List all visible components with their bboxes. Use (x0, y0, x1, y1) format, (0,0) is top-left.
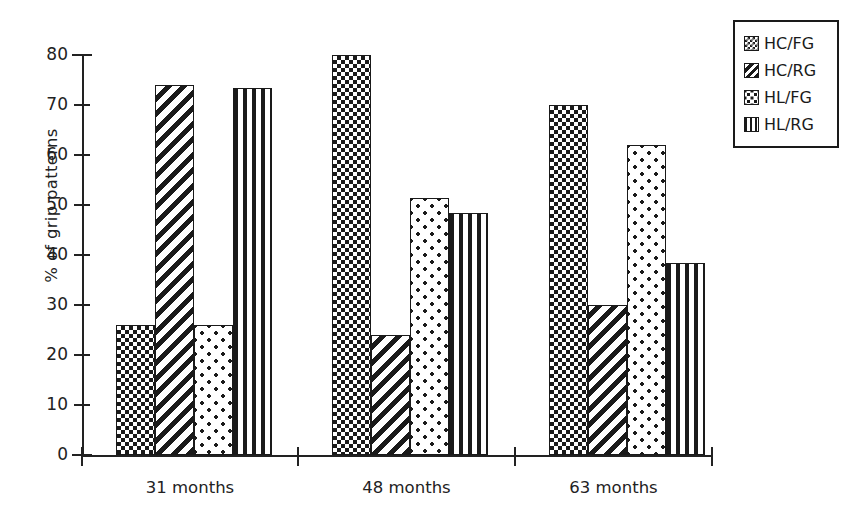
bar-hc-fg-48mo (332, 55, 371, 455)
y-axis-tick (72, 454, 92, 456)
bar-hc-fg-31mo (116, 325, 155, 455)
bar-hc-rg-31mo (155, 85, 194, 455)
legend-swatch-icon (744, 90, 759, 105)
bar-hl-fg-48mo (410, 198, 449, 456)
y-axis-tick (74, 304, 90, 306)
x-axis-tick (711, 447, 713, 466)
x-axis-tick (81, 447, 83, 466)
y-axis-tick (72, 54, 92, 56)
legend-swatch-icon (744, 117, 759, 132)
bar-hl-fg-31mo (194, 325, 233, 455)
bar-hc-fg-63mo (549, 105, 588, 455)
legend-item-label: HC/FG (764, 36, 814, 52)
bar-hl-rg-48mo (449, 213, 488, 456)
chart-figure: % of grip patterns 01020304050607080 31 … (0, 0, 851, 517)
y-axis-tick (74, 104, 90, 106)
bar-hc-rg-48mo (371, 335, 410, 455)
y-axis-tick (74, 204, 90, 206)
x-axis-category-label: 31 months (82, 478, 298, 497)
x-axis-category-label: 48 months (298, 478, 515, 497)
legend-swatch-icon (744, 36, 759, 51)
y-axis-tick (74, 354, 90, 356)
bar-hl-fg-63mo (627, 145, 666, 455)
legend-item-hl-rg[interactable]: HL/RG (744, 111, 830, 138)
bar-hc-rg-63mo (588, 305, 627, 455)
x-axis-tick (297, 447, 299, 466)
y-axis-tick (74, 254, 90, 256)
x-axis-category-label: 63 months (515, 478, 712, 497)
y-axis-tick (74, 404, 90, 406)
legend-item-hl-fg[interactable]: HL/FG (744, 84, 830, 111)
plot-area: 31 months48 months63 months (0, 0, 851, 517)
legend-item-hc-fg[interactable]: HC/FG (744, 30, 830, 57)
legend-item-label: HL/FG (764, 90, 812, 106)
legend-item-label: HL/RG (764, 117, 814, 133)
legend-item-label: HC/RG (764, 63, 816, 79)
bar-hl-rg-31mo (233, 88, 272, 456)
chart-legend: HC/FGHC/RGHL/FGHL/RG (733, 20, 839, 148)
legend-swatch-icon (744, 63, 759, 78)
legend-item-hc-rg[interactable]: HC/RG (744, 57, 830, 84)
y-axis-tick (74, 154, 90, 156)
bar-hl-rg-63mo (666, 263, 705, 456)
x-axis-tick (514, 447, 516, 466)
